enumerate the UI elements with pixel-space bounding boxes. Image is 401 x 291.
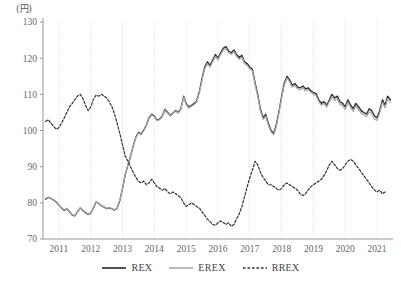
x-tick-label: 2014 (145, 244, 164, 254)
y-tick-label: 80 (28, 198, 38, 208)
x-tick-label: 2015 (177, 244, 196, 254)
y-tick-label: 130 (23, 17, 38, 27)
series-line-rrex (46, 94, 386, 226)
x-tick-label: 2020 (336, 244, 355, 254)
y-tick-label: 110 (23, 90, 37, 100)
line-chart-svg: 708090100110120130 201120122013201420152… (0, 0, 401, 291)
legend-label: REX (131, 262, 152, 273)
x-tick-label: 2012 (81, 244, 100, 254)
legend-swatch-rrex (242, 263, 268, 273)
y-tick-label: 70 (28, 234, 38, 244)
x-tick-label: 2013 (113, 244, 132, 254)
x-tick-label: 2011 (50, 244, 69, 254)
x-tick-labels: 2011201220132014201520162017201820192020… (50, 244, 387, 254)
chart-root: (円) 708090100110120130 20112012201320142… (0, 0, 401, 291)
x-tick-label: 2016 (209, 244, 228, 254)
chart-legend: REXEREXRREX (0, 262, 401, 273)
x-tick-label: 2017 (240, 244, 259, 254)
axes (40, 18, 393, 239)
y-tick-label: 90 (28, 162, 38, 172)
legend-item-erex[interactable]: EREX (168, 262, 225, 273)
y-tick-label: 100 (23, 126, 38, 136)
grid-lines (59, 22, 377, 239)
y-tick-labels: 708090100110120130 (23, 17, 38, 244)
x-tick-label: 2018 (272, 244, 291, 254)
legend-swatch-rex (101, 263, 127, 273)
legend-label: EREX (198, 262, 225, 273)
legend-item-rex[interactable]: REX (101, 262, 152, 273)
x-tick-label: 2021 (368, 244, 387, 254)
y-tick-label: 120 (23, 54, 38, 64)
legend-label: RREX (272, 262, 300, 273)
x-tick-label: 2019 (304, 244, 323, 254)
legend-swatch-erex (168, 263, 194, 273)
legend-item-rrex[interactable]: RREX (242, 262, 300, 273)
